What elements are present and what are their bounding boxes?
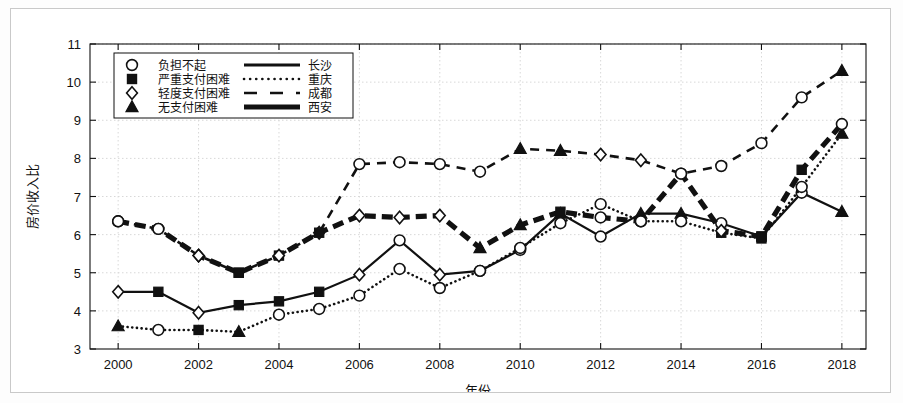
data-point-circle	[314, 304, 325, 315]
data-point-square	[194, 325, 203, 334]
data-point-circle	[434, 283, 445, 294]
data-point-circle	[515, 243, 526, 254]
y-axis-title: 房价收入比	[25, 164, 40, 229]
y-tick-label: 3	[74, 342, 81, 357]
legend-marker-label: 负担不起	[158, 59, 206, 73]
data-point-circle	[113, 216, 124, 227]
data-point-circle	[635, 216, 646, 227]
legend-marker-label: 无支付困难	[158, 101, 218, 115]
series-4	[113, 119, 848, 278]
legend-series-label: 西安	[308, 100, 332, 115]
legend: 负担不起严重支付困难轻度支付困难无支付困难长沙重庆成都西安	[114, 53, 353, 118]
data-point-triangle	[836, 64, 848, 75]
y-tick-label: 4	[74, 304, 81, 319]
data-point-diamond	[113, 286, 124, 298]
data-point-circle	[153, 224, 164, 235]
data-point-square	[315, 228, 324, 237]
data-point-circle	[676, 168, 687, 179]
data-point-square	[154, 287, 163, 296]
legend-marker-label: 轻度支付困难	[158, 86, 230, 101]
data-point-square	[127, 74, 136, 83]
data-point-diamond	[635, 154, 646, 166]
x-tick-label: 2010	[506, 357, 535, 372]
x-tick-label: 2006	[345, 357, 374, 372]
data-point-square	[234, 268, 243, 277]
x-tick-label: 2012	[586, 357, 615, 372]
line-chart-svg: 3456789101120002002200420062008201020122…	[11, 9, 890, 392]
y-tick-label: 7	[74, 190, 81, 205]
legend-series-label: 成都	[308, 87, 332, 101]
data-point-circle	[595, 212, 606, 223]
x-tick-label: 2008	[425, 357, 454, 372]
x-tick-label: 2018	[827, 357, 856, 372]
data-point-circle	[676, 216, 687, 227]
data-point-circle	[394, 235, 405, 246]
data-point-circle	[434, 159, 445, 170]
data-point-square	[234, 301, 243, 310]
data-point-circle	[756, 138, 767, 149]
x-tick-label: 2002	[184, 357, 213, 372]
x-tick-label: 2014	[667, 357, 696, 372]
y-tick-label: 9	[74, 113, 81, 128]
data-point-circle	[796, 182, 807, 193]
data-point-circle	[595, 199, 606, 210]
data-point-circle	[475, 166, 486, 177]
x-axis-title: 年份	[465, 383, 491, 392]
chart-screenshot: 3456789101120002002200420062008201020122…	[0, 0, 903, 403]
legend-marker-label: 严重支付困难	[158, 73, 230, 87]
data-point-circle	[796, 92, 807, 103]
y-tick-label: 10	[67, 75, 81, 90]
data-point-diamond	[434, 209, 445, 221]
data-point-circle	[595, 231, 606, 242]
data-point-circle	[836, 119, 847, 130]
data-point-square	[797, 165, 806, 174]
x-tick-label: 2000	[104, 357, 133, 372]
data-point-triangle	[514, 143, 526, 154]
data-point-circle	[475, 265, 486, 276]
x-tick-label: 2016	[747, 357, 776, 372]
data-point-circle	[394, 264, 405, 275]
figure-frame: 3456789101120002002200420062008201020122…	[10, 8, 891, 393]
legend-series-label: 长沙	[308, 59, 332, 73]
data-point-circle	[274, 309, 285, 320]
data-point-circle	[716, 161, 727, 172]
data-point-circle	[153, 325, 164, 336]
y-tick-label: 5	[74, 266, 81, 281]
data-point-diamond	[595, 148, 606, 160]
legend-series-label: 重庆	[308, 73, 332, 87]
data-point-square	[315, 287, 324, 296]
data-point-circle	[127, 60, 138, 71]
y-tick-label: 6	[74, 228, 81, 243]
data-point-circle	[354, 290, 365, 301]
data-point-square	[556, 207, 565, 216]
data-point-circle	[354, 159, 365, 170]
y-tick-label: 11	[68, 37, 82, 52]
y-tick-label: 8	[74, 151, 81, 166]
data-point-triangle	[112, 320, 124, 331]
data-point-square	[757, 232, 766, 241]
x-tick-label: 2004	[265, 357, 294, 372]
data-point-square	[274, 297, 283, 306]
data-point-diamond	[394, 211, 405, 223]
data-point-circle	[394, 157, 405, 168]
series-line	[118, 134, 842, 332]
data-point-circle	[555, 218, 566, 229]
data-point-diamond	[193, 307, 204, 319]
